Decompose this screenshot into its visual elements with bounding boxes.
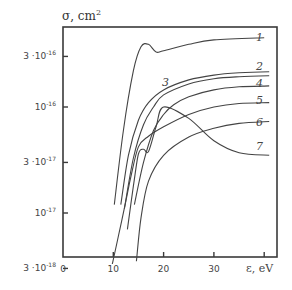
- x-tick-label: 0: [60, 264, 66, 274]
- curve-7: [127, 107, 269, 230]
- y-axis-label-exponent: 2: [96, 8, 101, 17]
- curve-6: [136, 122, 269, 262]
- chart-canvas: [0, 0, 292, 290]
- x-tick-label: 30: [208, 264, 219, 274]
- x-tick-label: 20: [158, 264, 169, 274]
- y-tick-label: 3 ·10-18: [23, 261, 56, 273]
- curve-1: [114, 38, 264, 205]
- y-tick-label: 10-17: [35, 206, 56, 218]
- curve-label-4: 4: [256, 77, 263, 90]
- curve-label-6: 6: [256, 116, 263, 129]
- curve-label-1: 1: [256, 31, 263, 44]
- y-tick-label: 3 ·10-16: [23, 49, 56, 61]
- y-axis-label-text: σ, cm: [62, 9, 96, 23]
- plot-border: [63, 27, 277, 257]
- curve-2: [121, 72, 269, 205]
- y-tick-label: 3 ·10-17: [23, 155, 56, 167]
- curve-label-2: 2: [256, 60, 263, 73]
- curve-label-3: 3: [162, 76, 169, 89]
- x-tick-label: 10: [108, 264, 119, 274]
- plot-frame: [63, 27, 277, 257]
- curves: [112, 38, 269, 264]
- y-axis-label: σ, cm2: [62, 8, 101, 23]
- curve-label-7: 7: [256, 140, 263, 153]
- curve-4: [134, 86, 269, 205]
- curve-label-5: 5: [256, 94, 263, 107]
- y-tick-label: 10-16: [35, 100, 56, 112]
- x-axis-label: ε, eV: [246, 262, 273, 275]
